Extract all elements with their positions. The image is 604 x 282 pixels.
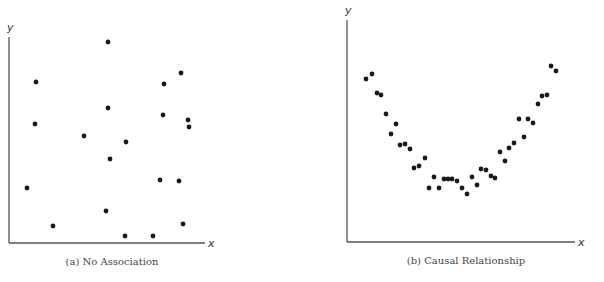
data-point: [177, 179, 182, 184]
data-point: [493, 176, 498, 181]
data-point: [536, 102, 541, 107]
data-point: [181, 222, 186, 227]
x-axis-label: x: [577, 236, 585, 249]
data-point: [106, 106, 111, 111]
data-point: [179, 71, 184, 76]
data-point: [423, 156, 428, 161]
data-point: [25, 186, 30, 191]
data-point: [517, 117, 522, 122]
data-point: [187, 125, 192, 130]
data-point: [394, 122, 399, 127]
data-point: [186, 118, 191, 123]
data-point: [412, 166, 417, 171]
data-point: [108, 157, 113, 162]
data-point: [398, 143, 403, 148]
data-point: [82, 134, 87, 139]
data-point: [475, 183, 480, 188]
data-point: [465, 192, 470, 197]
data-point: [124, 140, 129, 145]
data-point: [151, 234, 156, 239]
y-axis-label: y: [344, 4, 352, 17]
data-point: [503, 159, 508, 164]
data-point: [498, 150, 503, 155]
data-point: [370, 72, 375, 77]
data-point: [531, 121, 536, 126]
data-point: [158, 178, 163, 183]
figure: y x (a) No Association y x (b) Causal Re…: [0, 0, 604, 282]
y-axis-label: y: [6, 21, 14, 34]
data-point: [364, 77, 369, 82]
data-point: [507, 146, 512, 151]
data-point: [540, 94, 545, 99]
data-point: [427, 186, 432, 191]
data-point: [408, 147, 413, 152]
data-point: [403, 142, 408, 147]
data-point: [545, 93, 550, 98]
data-point: [34, 80, 39, 85]
data-point: [554, 69, 559, 74]
data-point: [526, 117, 531, 122]
data-point: [162, 82, 167, 87]
data-point: [450, 177, 455, 182]
data-point: [437, 186, 442, 191]
chart-causal-relationship: y x (b) Causal Relationship: [344, 4, 585, 266]
data-point: [512, 141, 517, 146]
data-point: [549, 64, 554, 69]
data-point: [470, 175, 475, 180]
x-axis-label: x: [207, 237, 215, 250]
data-point: [106, 40, 111, 45]
data-point: [51, 224, 56, 229]
data-point: [161, 113, 166, 118]
data-point: [484, 168, 489, 173]
data-point: [479, 167, 484, 172]
data-point: [123, 234, 128, 239]
data-point: [432, 175, 437, 180]
data-point: [455, 179, 460, 184]
data-point: [522, 135, 527, 140]
caption: (a) No Association: [66, 256, 159, 267]
data-point: [389, 132, 394, 137]
chart-no-association: y x (a) No Association: [6, 21, 215, 267]
data-point: [460, 186, 465, 191]
data-points: [364, 64, 559, 197]
data-point: [379, 93, 384, 98]
data-point: [417, 164, 422, 169]
data-point: [384, 112, 389, 117]
caption: (b) Causal Relationship: [407, 255, 525, 266]
data-point: [104, 209, 109, 214]
data-point: [33, 122, 38, 127]
data-points: [25, 40, 192, 239]
